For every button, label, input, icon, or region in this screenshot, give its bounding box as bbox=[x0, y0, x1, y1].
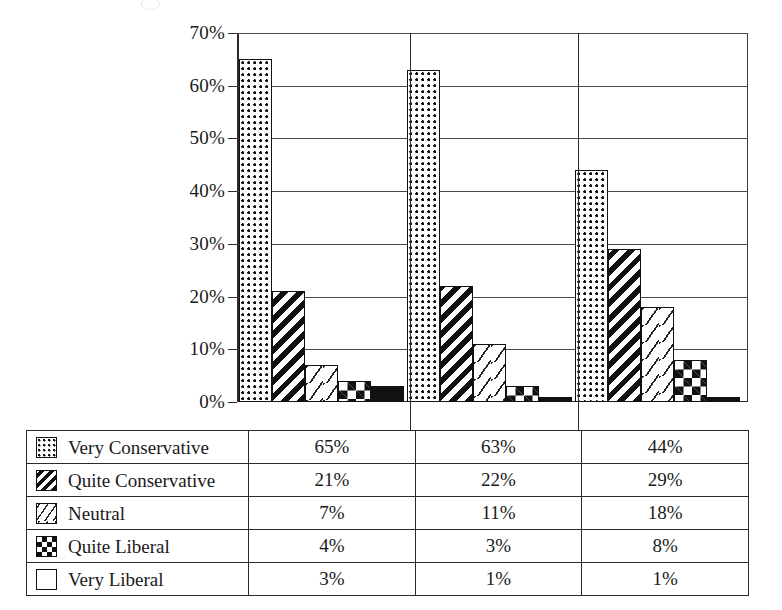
bar-quite-conservative bbox=[272, 291, 305, 402]
legend-label: Quite Conservative bbox=[68, 471, 215, 490]
value-cell-g1: 7% bbox=[249, 497, 416, 530]
value-cell-g1: 21% bbox=[249, 464, 416, 497]
table-row: Very Liberal3%1%1% bbox=[27, 563, 749, 596]
value-cell-g2: 11% bbox=[415, 497, 582, 530]
y-tick-label: 30% bbox=[190, 233, 225, 255]
legend-cell: Quite Liberal bbox=[27, 530, 249, 563]
y-tick-label: 60% bbox=[190, 75, 225, 97]
y-tick-label: 40% bbox=[190, 180, 225, 202]
legend-swatch-solid-icon bbox=[36, 569, 57, 590]
y-tick-mark bbox=[228, 33, 237, 34]
bar-quite-conservative bbox=[440, 286, 473, 402]
legend-swatch-check-icon bbox=[36, 536, 57, 557]
bar-group-2 bbox=[407, 33, 572, 402]
bar-neutral bbox=[305, 365, 338, 402]
value-cell-g2: 63% bbox=[415, 431, 582, 464]
bar-quite-liberal bbox=[674, 360, 707, 402]
y-tick-label: 0% bbox=[199, 391, 225, 413]
value-cell-g3: 29% bbox=[582, 464, 749, 497]
table-row: Neutral7%11%18% bbox=[27, 497, 749, 530]
legend-label: Quite Liberal bbox=[68, 537, 170, 556]
y-tick-mark bbox=[228, 297, 237, 298]
group-divider-1 bbox=[410, 33, 411, 431]
legend-label: Very Conservative bbox=[68, 438, 209, 457]
bar-chart: 0%10%20%30%40%50%60%70% bbox=[237, 33, 748, 402]
value-cell-g1: 65% bbox=[249, 431, 416, 464]
y-tick-mark bbox=[228, 349, 237, 350]
bar-quite-conservative bbox=[608, 249, 641, 402]
bar-quite-liberal bbox=[338, 381, 371, 402]
bar-group-3 bbox=[575, 33, 740, 402]
y-tick-mark bbox=[228, 86, 237, 87]
y-tick-mark bbox=[228, 244, 237, 245]
legend-cell: Very Liberal bbox=[27, 563, 249, 596]
y-tick-label: 10% bbox=[190, 338, 225, 360]
table-row: Very Conservative65%63%44% bbox=[27, 431, 749, 464]
y-tick-label: 70% bbox=[190, 22, 225, 44]
legend-label: Neutral bbox=[68, 504, 125, 523]
y-tick-mark bbox=[228, 138, 237, 139]
y-tick-mark bbox=[228, 402, 237, 403]
value-cell-g1: 3% bbox=[249, 563, 416, 596]
value-cell-g3: 1% bbox=[582, 563, 749, 596]
y-tick-label: 20% bbox=[190, 286, 225, 308]
bar-neutral bbox=[641, 307, 674, 402]
value-cell-g3: 44% bbox=[582, 431, 749, 464]
legend-data-table: Very Conservative65%63%44%Quite Conserva… bbox=[26, 430, 749, 596]
bar-very-conservative bbox=[239, 59, 272, 402]
group-divider-2 bbox=[578, 33, 579, 431]
y-tick-label: 50% bbox=[190, 127, 225, 149]
bar-very-conservative bbox=[407, 70, 440, 402]
legend-swatch-diag-icon bbox=[36, 470, 57, 491]
bar-very-liberal bbox=[371, 386, 404, 402]
legend-swatch-dash-icon bbox=[36, 503, 57, 524]
table-row: Quite Conservative21%22%29% bbox=[27, 464, 749, 497]
bar-very-liberal bbox=[707, 397, 740, 402]
page-artifact-mark bbox=[141, 0, 160, 10]
table-row: Quite Liberal4%3%8% bbox=[27, 530, 749, 563]
legend-label: Very Liberal bbox=[68, 570, 163, 589]
bar-very-liberal bbox=[539, 397, 572, 402]
legend-cell: Quite Conservative bbox=[27, 464, 249, 497]
bar-group-1 bbox=[239, 33, 404, 402]
value-cell-g2: 3% bbox=[415, 530, 582, 563]
y-tick-mark bbox=[228, 191, 237, 192]
bar-very-conservative bbox=[575, 170, 608, 402]
legend-cell: Neutral bbox=[27, 497, 249, 530]
value-cell-g2: 1% bbox=[415, 563, 582, 596]
bar-neutral bbox=[473, 344, 506, 402]
legend-cell: Very Conservative bbox=[27, 431, 249, 464]
bar-quite-liberal bbox=[506, 386, 539, 402]
legend-swatch-dots-icon bbox=[36, 437, 57, 458]
value-cell-g3: 18% bbox=[582, 497, 749, 530]
value-cell-g1: 4% bbox=[249, 530, 416, 563]
value-cell-g3: 8% bbox=[582, 530, 749, 563]
value-cell-g2: 22% bbox=[415, 464, 582, 497]
